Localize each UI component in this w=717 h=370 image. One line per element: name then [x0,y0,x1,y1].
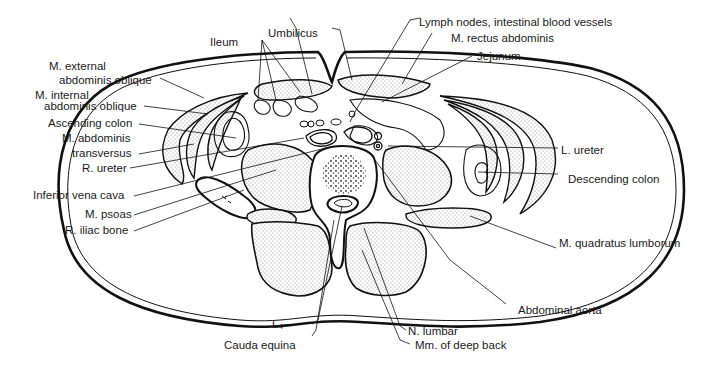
label-quadratus-lumborum: M. quadratus lumborum [559,237,680,250]
label-l4: L₄ [272,318,283,331]
label-descending-colon: Descending colon [568,173,659,186]
rectus-abdominis [254,75,430,100]
label-lymph-nodes: Lymph nodes, intestinal blood vessels [419,16,612,29]
label-external-oblique-line1: M. external [49,60,106,73]
label-cauda-equina: Cauda equina [224,339,296,352]
label-transversus-line2: transversus [72,147,131,160]
label-n-lumbar: N. lumbar [408,325,458,338]
label-internal-oblique-line2: abdominis oblique [44,100,137,113]
label-jejunum: Jejunum [477,50,520,63]
label-inferior-vena-cava: Inferior vena cava [33,189,124,202]
label-l-ureter: L. ureter [561,144,604,157]
label-ileum: Ileum [210,36,238,49]
label-umbilicus: Umbilicus [268,27,318,40]
label-iliac-bone: R. iliac bone [65,224,128,237]
label-deep-back: Mm. of deep back [415,339,506,352]
label-rectus-abdominis: M. rectus abdominis [451,32,554,45]
label-ascending-colon: Ascending colon [48,117,132,130]
lymph-nodes [300,111,355,127]
label-external-oblique-line2: abdominis oblique [59,74,152,87]
label-abdominal-aorta: Abdominal aorta [518,304,602,317]
label-r-ureter: R. ureter [82,162,127,175]
label-transversus-line1: M. abdominis [62,132,130,145]
label-psoas: M. psoas [85,208,132,221]
